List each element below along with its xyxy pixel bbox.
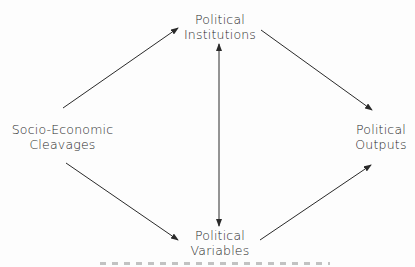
node-label-line1: Political [352, 122, 410, 137]
node-socio-economic-cleavages: Socio-Economic Cleavages [5, 122, 120, 152]
edge-variables-to-outputs [260, 165, 371, 240]
node-label-line2: Cleavages [5, 137, 120, 152]
edge-socio-to-variables [66, 163, 178, 240]
node-label-line2: Variables [180, 243, 260, 258]
node-label-line1: Political [180, 12, 260, 27]
diagram-canvas: Political Institutions Socio-Economic Cl… [0, 0, 415, 267]
node-label-line1: Socio-Economic [5, 122, 120, 137]
node-political-institutions: Political Institutions [180, 12, 260, 42]
cropped-caption-fragment [100, 262, 330, 265]
edge-socio-to-institutions [63, 28, 178, 108]
node-label-line1: Political [180, 228, 260, 243]
edge-institutions-to-outputs [261, 30, 372, 110]
node-political-outputs: Political Outputs [352, 122, 410, 152]
node-label-line2: Institutions [180, 27, 260, 42]
node-label-line2: Outputs [352, 137, 410, 152]
node-political-variables: Political Variables [180, 228, 260, 258]
